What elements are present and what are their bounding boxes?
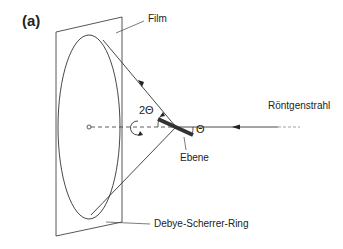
xray-beam-label: Röntgenstrahl: [268, 100, 330, 111]
film-leader-line: [116, 21, 144, 33]
plane-label: Ebene: [180, 152, 209, 163]
two-theta-label: 2Θ: [139, 104, 154, 116]
diffracted-ray-lower: [91, 127, 176, 215]
xray-beam-arrowhead-icon: [232, 125, 240, 130]
rotation-arrowhead-icon: [138, 131, 143, 136]
diagram-canvas: [0, 0, 343, 249]
panel-label: (a): [22, 12, 40, 29]
ebene-leader-line: [184, 137, 186, 150]
ring-center-dot: [87, 125, 91, 129]
ring-label: Debye-Scherrer-Ring: [154, 218, 248, 229]
theta-label: Θ: [196, 123, 205, 135]
debye-scherrer-diagram: (a) Film Röntgenstrahl 2Θ Θ Ebene Debye-…: [0, 0, 343, 249]
film-label: Film: [148, 13, 167, 24]
